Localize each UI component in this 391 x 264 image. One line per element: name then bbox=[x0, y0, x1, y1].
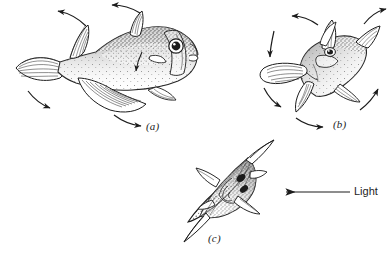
panel-b-eye bbox=[325, 48, 336, 57]
light-source-label: Light bbox=[354, 185, 378, 197]
panel-label-c: (c) bbox=[208, 232, 221, 244]
figure-illustration: (a) (b) (c) Light bbox=[0, 0, 391, 264]
panel-a-mouth bbox=[189, 55, 198, 61]
panel-label-a: (a) bbox=[146, 120, 159, 132]
panel-label-b: (b) bbox=[333, 118, 346, 130]
fish-orientation-figure-svg bbox=[0, 0, 391, 264]
panel-a-eye bbox=[169, 39, 183, 53]
